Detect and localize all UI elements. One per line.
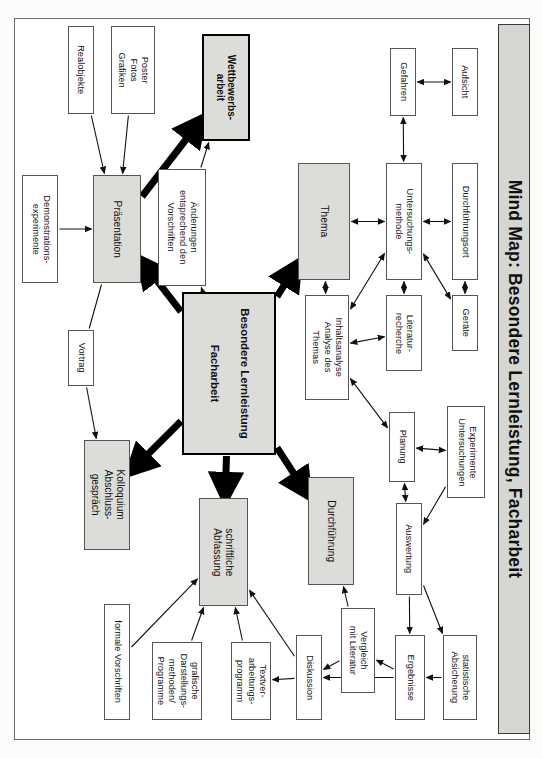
node-label: Inhaltsanalyse Analyse des Themas xyxy=(310,318,344,377)
edge-besondere-to-abfassung xyxy=(225,456,226,497)
edge-untersuchung-to-inhaltsanalyse xyxy=(351,253,385,309)
node-ergebnisse[interactable]: Ergebnisse xyxy=(395,635,425,720)
edge-planung-to-auswertung xyxy=(405,484,406,502)
node-grafische[interactable]: grafische Darstellungs- methoden/ Progra… xyxy=(152,642,202,720)
node-demoexp[interactable]: Demonstrations- experimente xyxy=(22,175,58,283)
node-realobjekte[interactable]: Realobjekte xyxy=(68,26,94,114)
node-statistische[interactable]: statistische Absicherung xyxy=(443,635,477,720)
page-title: Mind Map: Besondere Lernleistung, Fachar… xyxy=(504,180,525,579)
node-inhaltsanalyse[interactable]: Inhaltsanalyse Analyse des Themas xyxy=(305,295,349,400)
node-gefahren[interactable]: Gefahren xyxy=(390,48,416,116)
edge-realobjekte-to-praesentation xyxy=(91,116,104,174)
node-durchfort[interactable]: Durchführungsort xyxy=(452,163,478,280)
node-aenderungen[interactable]: Änderungen entsprechend den Vorschriften xyxy=(158,169,206,286)
title-band: Mind Map: Besondere Lernleistung, Fachar… xyxy=(498,24,530,734)
node-label: Besondere Lernleistung Facharbeit xyxy=(207,308,252,438)
node-label: Untersuchungs- methode xyxy=(393,189,416,255)
edge-auswertung-to-statistische xyxy=(424,586,443,634)
edge-ergebnisse-to-vergleich xyxy=(377,660,394,669)
edge-besondere-to-durchfuehrung xyxy=(277,448,307,494)
node-label: Geräte xyxy=(459,309,470,337)
node-label: Kolloquium Abschluss- gespräch xyxy=(88,470,125,520)
node-label: formale Vorschriften xyxy=(111,621,122,704)
node-label: Textver- arbeitungs- programm xyxy=(234,658,268,705)
edge-textver-to-abfassung xyxy=(235,608,242,641)
node-label: Aufsicht xyxy=(459,65,470,98)
node-label: Demonstrations- experimente xyxy=(29,195,52,263)
node-untersuchung[interactable]: Untersuchungs- methode xyxy=(386,163,422,280)
mindmap-page: RealobjektePoster Fotos GrafikenWettbewe… xyxy=(0,0,542,758)
node-abfassung[interactable]: schriftliche Abfassung xyxy=(199,498,248,606)
node-kolloquium[interactable]: Kolloquium Abschluss- gespräch xyxy=(84,440,130,550)
edge-grafische-to-abfassung xyxy=(192,608,204,641)
edge-formale-to-abfassung xyxy=(132,579,198,647)
edge-besondere-to-aenderungen xyxy=(201,288,202,291)
node-label: schriftliche Abfassung xyxy=(211,528,236,576)
node-label: Planung xyxy=(396,430,407,464)
node-label: Literatur- recherche xyxy=(393,312,416,353)
node-geraete[interactable]: Geräte xyxy=(452,295,478,351)
node-textver[interactable]: Textver- arbeitungs- programm xyxy=(231,642,271,720)
node-vortrag[interactable]: Vortrag xyxy=(68,330,94,386)
edge-poster-to-praesentation xyxy=(123,116,129,174)
edge-inhaltsanalyse-to-planung xyxy=(351,379,388,428)
edge-diskussion-to-textver xyxy=(273,678,295,679)
node-label: Gefahren xyxy=(397,63,408,102)
node-label: Änderungen entsprechend den Vorschriften xyxy=(165,190,199,264)
edge-aenderungen-to-wettbewerb xyxy=(201,143,209,168)
node-label: Durchführungsort xyxy=(459,186,470,258)
node-label: statistische Absicherung xyxy=(449,652,472,704)
node-auswertung[interactable]: Auswertung xyxy=(396,503,422,595)
node-poster[interactable]: Poster Fotos Grafiken xyxy=(111,26,155,114)
node-label: Präsentation xyxy=(111,200,123,257)
node-label: Vortrag xyxy=(75,343,86,373)
node-label: Wettbewerbs- arbeit xyxy=(215,55,238,120)
node-literatur[interactable]: Literatur- recherche xyxy=(386,295,422,371)
node-besondere[interactable]: Besondere Lernleistung Facharbeit xyxy=(182,292,276,455)
edge-besondere-to-kolloquium xyxy=(131,421,181,471)
node-vergleich[interactable]: Vergleich mit Literatur xyxy=(341,608,375,693)
edge-praesentation-to-vortrag xyxy=(89,285,101,329)
edge-inhaltsanalyse-to-literatur xyxy=(351,337,385,343)
node-label: Vergleich mit Literatur xyxy=(347,626,370,675)
edge-experimente-to-auswertung xyxy=(424,487,446,524)
node-label: Ergebnisse xyxy=(404,654,415,701)
node-label: Realobjekte xyxy=(75,45,86,94)
node-formale[interactable]: formale Vorschriften xyxy=(104,604,130,720)
node-planung[interactable]: Planung xyxy=(389,412,415,482)
node-thema[interactable]: Thema xyxy=(298,163,350,280)
node-praesentation[interactable]: Präsentation xyxy=(93,175,141,283)
node-diskussion[interactable]: Diskussion xyxy=(296,635,322,720)
edge-planung-to-experimente xyxy=(417,448,446,450)
node-durchfuehrung[interactable]: Durchführung xyxy=(308,477,354,585)
edge-vortrag-to-kolloquium xyxy=(87,388,97,439)
node-wettbewerb[interactable]: Wettbewerbs- arbeit xyxy=(202,34,250,141)
node-aufsicht[interactable]: Aufsicht xyxy=(452,48,478,116)
node-label: Durchführung xyxy=(325,500,337,562)
node-label: Auswertung xyxy=(403,524,414,573)
edge-vergleich-to-durchfuehrung xyxy=(344,587,349,607)
edge-vergleich-to-diskussion xyxy=(324,661,340,670)
edge-besondere-to-thema xyxy=(277,265,297,297)
node-label: grafische Darstellungs- methoden/ Progra… xyxy=(154,654,200,709)
node-experimente[interactable]: Experimente Untersuchungen xyxy=(447,406,485,498)
edge-untersuchung-to-geraete xyxy=(424,254,451,299)
node-label: Poster Fotos Grafiken xyxy=(116,52,150,87)
node-label: Diskussion xyxy=(303,655,314,700)
node-label: Experimente Untersuchungen xyxy=(455,418,478,486)
node-label: Thema xyxy=(318,206,330,238)
